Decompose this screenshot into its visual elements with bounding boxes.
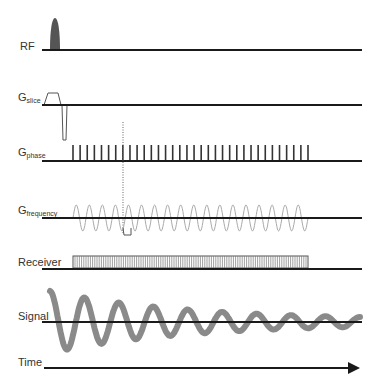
phase-encoding-steps <box>73 145 308 161</box>
rf-track <box>42 18 362 50</box>
arrow-right-icon <box>348 362 360 374</box>
decaying-signal-wave <box>50 291 360 350</box>
receiver-track <box>42 256 362 269</box>
signal-track <box>42 291 362 350</box>
frequency-gradient-track <box>42 205 362 235</box>
frequency-prephase-lobe <box>123 228 131 235</box>
slice-rephase-lobe <box>62 105 67 140</box>
phase-gradient-track <box>42 145 362 161</box>
rf-pulse-icon <box>50 18 60 50</box>
pulse-sequence-diagram <box>0 0 379 390</box>
slice-select-lobe <box>44 93 61 105</box>
slice-gradient-track <box>42 93 362 140</box>
time-axis <box>44 362 360 374</box>
